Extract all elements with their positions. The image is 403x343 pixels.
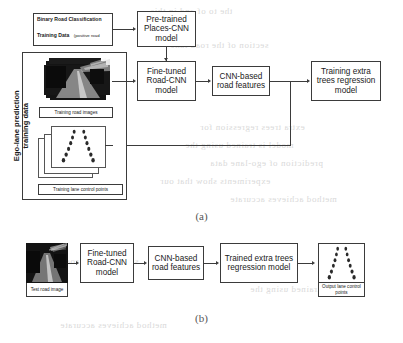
arrowhead-to-features-b [144,261,147,265]
connector-features-to-regression-b [204,263,216,264]
caption-test-road-image: Test road image [26,283,68,297]
box-cnn-based-road-features-a[interactable]: CNN-based road features [212,66,270,96]
arrowhead-roadimages-to-roadcnn [133,79,136,83]
box-finetuned-road-cnn-b[interactable]: Fine-tuned Road-CNN model [80,243,134,283]
photo-test-road-image [26,243,68,283]
box-training-extra-trees-regression-a[interactable]: Training extra trees regression model [311,61,381,101]
box-pretrained-places-cnn[interactable]: Pre-trained Places-CNN model [137,11,196,47]
arrowhead-to-places-cnn [133,27,136,31]
arrowhead-testimage-to-roadcnn [76,261,79,265]
box-label: Trained extra trees regression model [221,254,297,272]
stack-training-lane-control-points [38,125,116,180]
caption-training-road-images: Training road images [39,107,113,118]
group-label-line1: Ego-lane prediction [12,90,21,161]
bleed-line: prediction of ego-lane data [210,158,323,168]
binary-road-classification-data-block: Binary Road Classification Training Data… [33,13,113,46]
box-label: CNN-based road features [149,254,203,272]
figure-caption-a-label: (a) [195,210,207,222]
figure-caption-b-label: (b) [195,312,208,324]
connector-data-to-places [113,29,133,30]
connector-lanepoints-riser [290,81,291,145]
bleed-line: experiments show that our [160,176,270,186]
lane-card-front [51,126,106,168]
photo-training-road-images [44,57,112,102]
figure-caption-b: (b) [0,312,403,324]
caption-label: Test road image [31,287,64,292]
arrowhead-to-regression-b [216,261,219,265]
output-lane-control-points-card [318,243,365,283]
caption-label: Training lane control points [53,187,108,192]
bleed-line: method achieves accurate [230,194,337,204]
caption-label: Output lane control points [319,284,364,295]
connector-roadcnn-to-features-b [134,263,144,264]
box-finetuned-road-cnn-a[interactable]: Fine-tuned Road-CNN model [137,61,196,101]
connector-testimage-to-roadcnn [68,263,76,264]
box-label: Training extra trees regression model [312,67,380,95]
figure-caption-a: (a) [0,210,403,222]
training-data-title: Binary Road Classification [37,16,109,22]
connector-roadimages-to-roadcnn [112,81,133,82]
box-trained-extra-trees-regression-b[interactable]: Trained extra trees regression model [220,243,298,283]
group-label-line2: training data [21,103,30,149]
arrowhead-to-regression-a [307,79,310,83]
figure-page: the to of and in this section of the roa… [0,0,403,343]
connector-regression-to-output [298,263,312,264]
connector-lanepoints-out [105,145,113,146]
box-label: Fine-tuned Road-CNN model [81,249,133,277]
box-label: CNN-based road features [213,72,269,90]
caption-label: Training road images [55,110,98,115]
connector-features-to-regression-a [270,81,307,82]
caption-training-lane-control-points: Training lane control points [38,184,123,195]
training-data-subtitle-bold: Training Data [37,32,69,38]
connector-lanepoints-horizontal [105,145,291,146]
caption-output-lane-control-points: Output lane control points [318,283,365,297]
connector-roadcnn-to-features-a [196,81,208,82]
box-cnn-based-road-features-b[interactable]: CNN-based road features [148,246,204,280]
group-label-ego-lane-prediction: Ego-lane prediction training data [13,78,30,174]
arrowhead-to-features-a [208,79,211,83]
arrowhead-to-output [312,261,315,265]
box-label: Fine-tuned Road-CNN model [138,67,195,95]
box-label: Pre-trained Places-CNN model [138,15,195,43]
